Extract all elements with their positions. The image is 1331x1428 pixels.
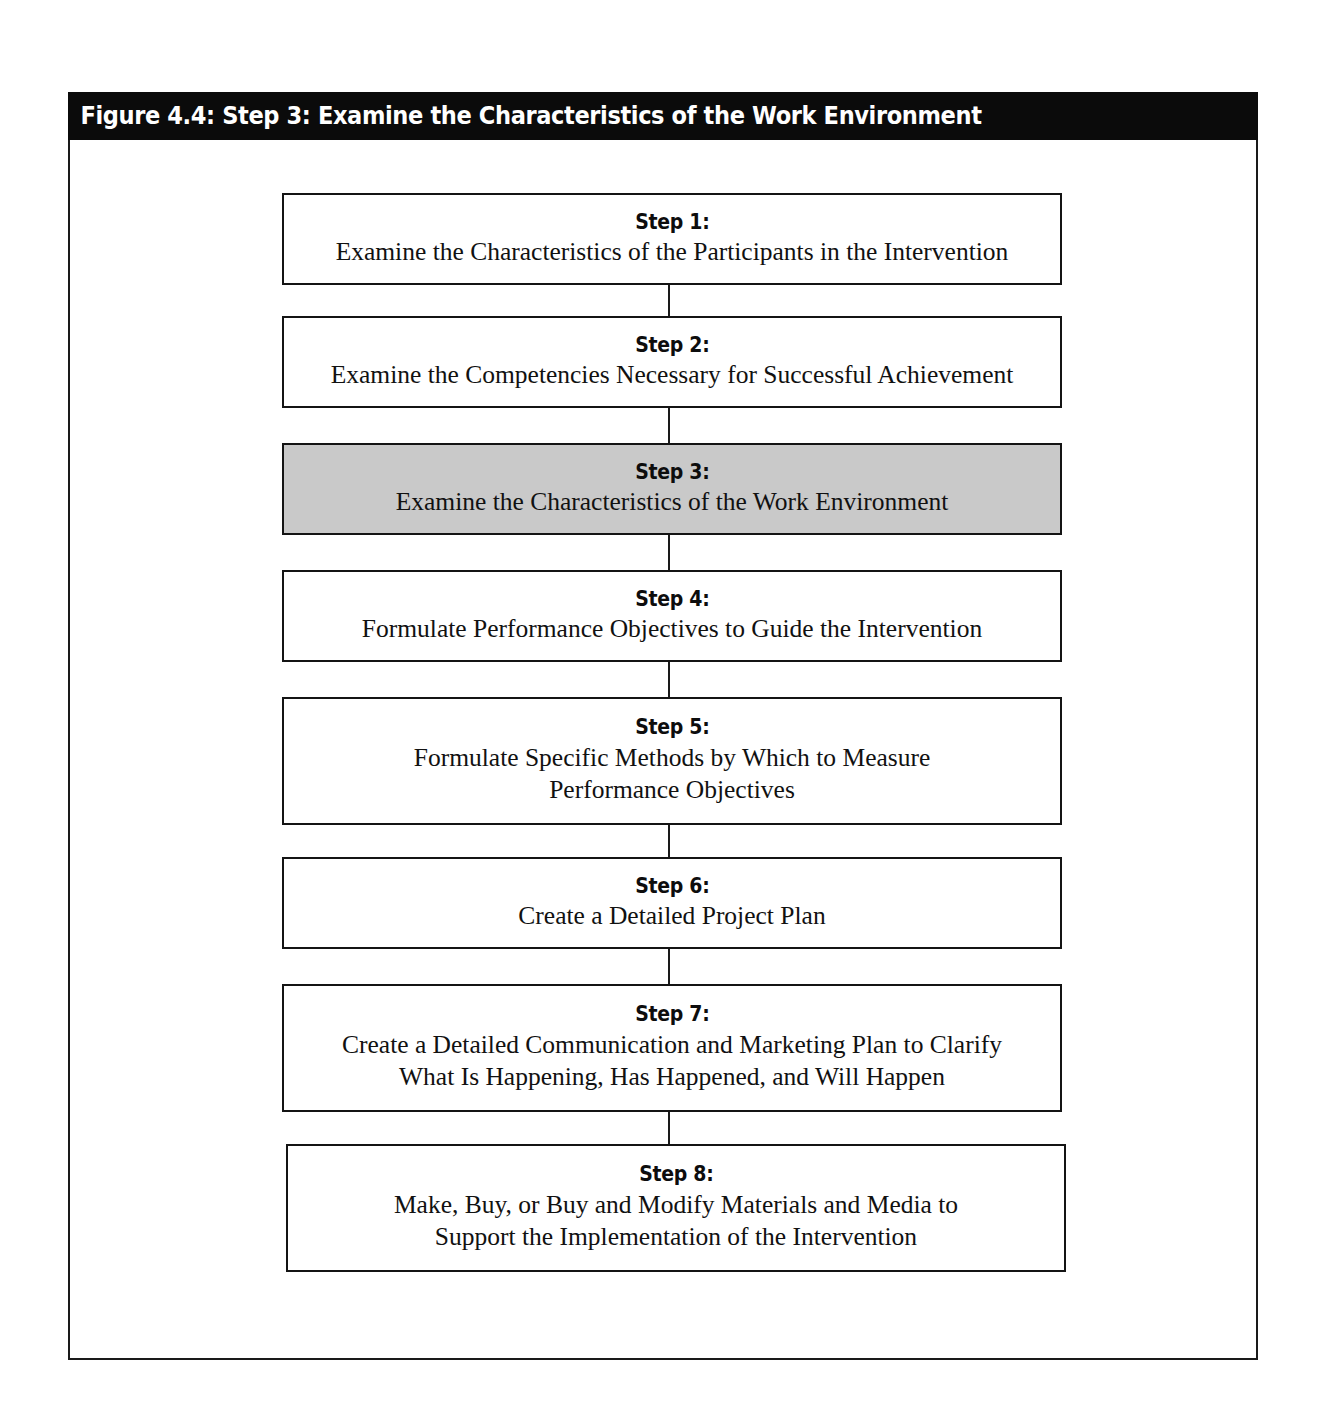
connector-line-7-to-8 — [668, 1112, 670, 1144]
step-box-8-description: Make, Buy, or Buy and Modify Materials a… — [384, 1189, 968, 1253]
step-box-4[interactable]: Step 4:Formulate Performance Objectives … — [282, 570, 1062, 662]
connector-line-1-to-2 — [668, 285, 670, 316]
connector-line-2-to-3 — [668, 408, 670, 443]
figure-frame: Figure 4.4: Step 3: Examine the Characte… — [68, 92, 1258, 1360]
flowchart-body: Step 1:Examine the Characteristics of th… — [70, 140, 1256, 1358]
step-box-1[interactable]: Step 1:Examine the Characteristics of th… — [282, 193, 1062, 285]
step-box-8-label: Step 8: — [639, 1162, 713, 1187]
step-box-2[interactable]: Step 2:Examine the Competencies Necessar… — [282, 316, 1062, 408]
step-box-1-description: Examine the Characteristics of the Parti… — [326, 236, 1019, 268]
figure-title: Figure 4.4: Step 3: Examine the Characte… — [68, 103, 982, 129]
step-box-3-label: Step 3: — [635, 460, 709, 485]
step-box-8[interactable]: Step 8:Make, Buy, or Buy and Modify Mate… — [286, 1144, 1066, 1272]
step-box-3-description: Examine the Characteristics of the Work … — [386, 486, 959, 518]
connector-line-3-to-4 — [668, 535, 670, 570]
step-box-7-label: Step 7: — [635, 1002, 709, 1027]
step-box-6-label: Step 6: — [635, 874, 709, 899]
step-box-6-description: Create a Detailed Project Plan — [508, 900, 835, 932]
figure-title-bar: Figure 4.4: Step 3: Examine the Characte… — [68, 92, 1258, 140]
step-box-4-label: Step 4: — [635, 587, 709, 612]
step-box-2-label: Step 2: — [635, 333, 709, 358]
step-box-5-label: Step 5: — [635, 715, 709, 740]
connector-line-5-to-6 — [668, 825, 670, 857]
connector-line-6-to-7 — [668, 949, 670, 984]
step-box-3[interactable]: Step 3:Examine the Characteristics of th… — [282, 443, 1062, 535]
step-box-6[interactable]: Step 6:Create a Detailed Project Plan — [282, 857, 1062, 949]
step-box-2-description: Examine the Competencies Necessary for S… — [321, 359, 1024, 391]
step-box-7-description: Create a Detailed Communication and Mark… — [332, 1029, 1012, 1093]
step-box-4-description: Formulate Performance Objectives to Guid… — [352, 613, 992, 645]
connector-line-4-to-5 — [668, 662, 670, 697]
step-box-5[interactable]: Step 5:Formulate Specific Methods by Whi… — [282, 697, 1062, 825]
step-box-7[interactable]: Step 7:Create a Detailed Communication a… — [282, 984, 1062, 1112]
step-box-5-description: Formulate Specific Methods by Which to M… — [404, 742, 941, 806]
step-box-1-label: Step 1: — [635, 210, 709, 235]
